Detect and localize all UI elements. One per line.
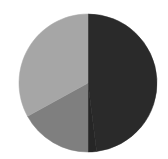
pie-slices [19,14,157,152]
pie-slice-slice-a [88,14,157,151]
pie-chart [0,0,168,159]
